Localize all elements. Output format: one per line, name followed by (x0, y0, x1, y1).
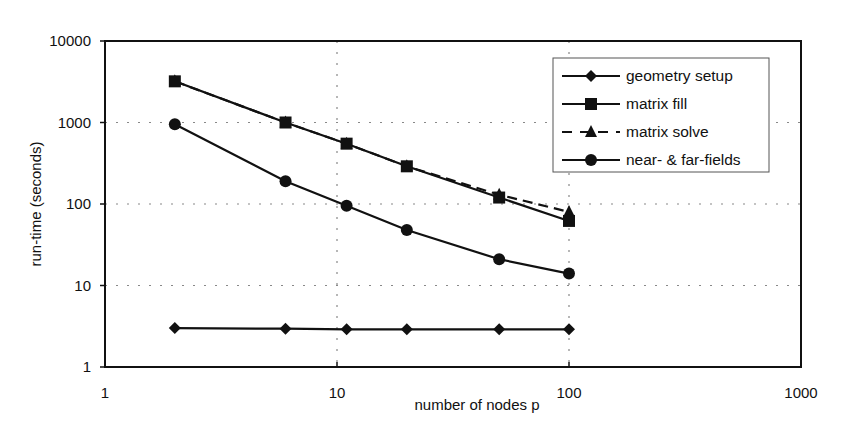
series-line (175, 81, 569, 221)
legend-label: matrix fill (626, 95, 687, 112)
diamond-marker (493, 323, 505, 335)
square-marker (563, 215, 575, 227)
series-line (175, 124, 569, 273)
series-matrix-fill (169, 75, 575, 227)
y-tick-label: 1 (83, 358, 91, 375)
x-axis-label: number of nodes p (414, 396, 539, 413)
circle-marker (341, 200, 353, 212)
circle-icon (585, 154, 597, 166)
diamond-marker (341, 323, 353, 335)
diamond-marker (401, 323, 413, 335)
square-icon (585, 98, 597, 110)
x-tick-label: 100 (556, 384, 581, 401)
y-axis-label: run-time (seconds) (27, 141, 44, 266)
y-tick-label: 100 (66, 195, 91, 212)
circle-marker (563, 268, 575, 280)
circle-marker (169, 118, 181, 130)
legend-label: geometry setup (626, 67, 733, 84)
x-tick-label: 10 (329, 384, 346, 401)
square-marker (401, 160, 413, 172)
series-line (175, 81, 569, 212)
x-tick-label: 1000 (784, 384, 817, 401)
legend: geometry setupmatrix fillmatrix solvenea… (553, 58, 769, 172)
legend-label: matrix solve (626, 123, 709, 140)
series-geometry-setup (169, 322, 575, 335)
y-tick-label: 10 (74, 277, 91, 294)
diamond-marker (169, 322, 181, 334)
data-series (169, 74, 575, 335)
square-marker (280, 117, 292, 129)
diamond-marker (280, 323, 292, 335)
square-marker (341, 138, 353, 150)
x-tick-label: 1 (101, 384, 109, 401)
diamond-marker (563, 323, 575, 335)
circle-marker (493, 253, 505, 265)
circle-marker (401, 224, 413, 236)
line-chart: 1101001000110100100010000 number of node… (0, 0, 846, 436)
series-line (175, 328, 569, 329)
square-marker (169, 75, 181, 87)
legend-label: near- & far-fields (626, 151, 741, 168)
series-matrix-solve (169, 74, 575, 217)
circle-marker (280, 175, 292, 187)
square-marker (493, 192, 505, 204)
y-tick-label: 10000 (49, 32, 91, 49)
y-tick-label: 1000 (58, 114, 91, 131)
